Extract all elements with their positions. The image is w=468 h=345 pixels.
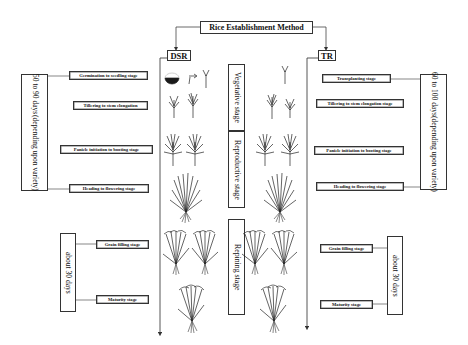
grain-filling-plant-icon	[163, 230, 189, 275]
booting-plant-icon	[164, 134, 182, 166]
tillering-plant-icon	[169, 96, 179, 118]
grain-filling-plant-icon	[192, 230, 218, 275]
seedling-icon	[203, 70, 209, 88]
plant-illustrations	[0, 0, 468, 345]
grain-filling-plant-icon	[271, 230, 297, 275]
arrow-icon	[189, 74, 197, 84]
mature-plant-icon	[178, 285, 204, 333]
booting-plant-icon	[281, 134, 299, 166]
seed-icon	[165, 73, 179, 84]
flowering-plant-icon	[264, 173, 296, 223]
mature-plant-icon	[260, 285, 286, 333]
booting-plant-icon	[256, 134, 274, 166]
tillering-plant-icon	[267, 94, 277, 119]
tillering-plant-icon	[188, 93, 198, 118]
tillering-plant-icon	[285, 99, 295, 118]
flowering-plant-icon	[170, 173, 202, 223]
seedling-icon	[282, 66, 288, 84]
booting-plant-icon	[186, 134, 204, 166]
grain-filling-plant-icon	[242, 230, 268, 275]
